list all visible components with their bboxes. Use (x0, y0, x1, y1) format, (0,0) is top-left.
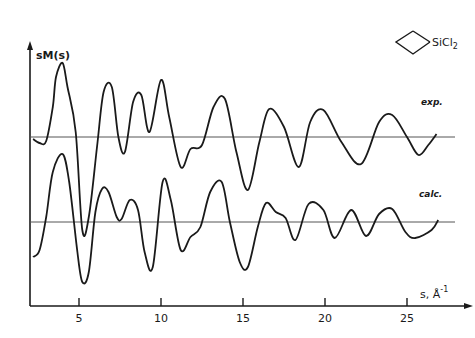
x-tick-label: 15 (236, 312, 250, 325)
x-tick-label: 5 (76, 312, 83, 325)
exp-series-label: exp. (421, 97, 443, 107)
x-axis-arrow-icon (464, 303, 473, 309)
ring-bond (413, 31, 430, 42)
x-ticks: 510152025 (76, 298, 415, 325)
y-axis-label: sM(s) (36, 49, 70, 62)
exp-curve (33, 63, 436, 236)
molecule-label: SiCl2 (432, 36, 458, 51)
x-tick-label: 10 (154, 312, 168, 325)
chart-canvas: 510152025 sM(s) s, Å-1 exp. calc. SiCl2 (0, 0, 475, 338)
cyclobutane-ring-icon (396, 31, 430, 54)
y-axis-arrow-icon (27, 41, 33, 50)
x-tick-label: 25 (400, 312, 414, 325)
x-tick-label: 20 (318, 312, 332, 325)
x-axis-label: s, Å-1 (420, 285, 448, 301)
calc-series-label: calc. (419, 189, 442, 199)
molecule-diagram: SiCl2 (396, 31, 458, 54)
